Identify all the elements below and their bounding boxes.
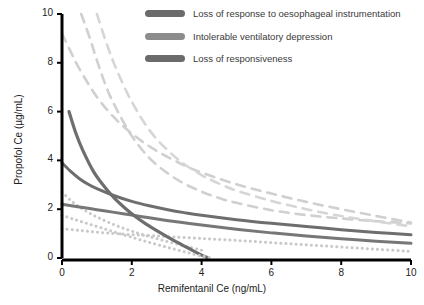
legend-swatch [145, 55, 185, 62]
chart-figure: Loss of response to oesophageal instrume… [0, 0, 424, 305]
x-tick-label: 2 [112, 267, 152, 278]
y-tick-label: 8 [0, 56, 53, 67]
y-axis-title: Propofol Ce (µg/mL) [13, 75, 24, 205]
y-tick-label: 4 [0, 153, 53, 164]
y-tick-label: 6 [0, 105, 53, 116]
chart-legend: Loss of response to oesophageal instrume… [145, 9, 401, 64]
y-tick-label: 0 [0, 251, 53, 262]
legend-swatch [145, 33, 185, 40]
legend-item: Loss of responsiveness [145, 54, 401, 64]
x-tick-label: 4 [182, 267, 222, 278]
x-tick-label: 10 [391, 267, 424, 278]
legend-item: Loss of response to oesophageal instrume… [145, 9, 401, 19]
y-tick-label: 10 [0, 7, 53, 18]
legend-item: Intolerable ventilatory depression [145, 32, 401, 42]
y-tick-label: 2 [0, 202, 53, 213]
legend-label: Intolerable ventilatory depression [193, 32, 332, 42]
x-tick-label: 8 [321, 267, 361, 278]
legend-label: Loss of response to oesophageal instrume… [193, 9, 401, 19]
x-tick-label: 0 [42, 267, 82, 278]
x-axis-title: Remifentanil Ce (ng/mL) [0, 283, 424, 294]
legend-label: Loss of responsiveness [193, 54, 292, 64]
legend-swatch [145, 10, 185, 17]
x-tick-label: 6 [251, 267, 291, 278]
